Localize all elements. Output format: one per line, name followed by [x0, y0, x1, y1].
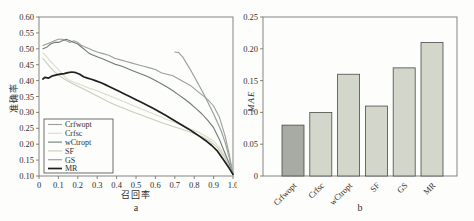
bar-chart-panel: 00.050.100.150.200.25CrfwoptCrfscwCtropt…	[237, 0, 474, 221]
bar-GS	[393, 68, 415, 176]
bar-label-SF: SF	[368, 180, 382, 194]
bar-SF	[365, 106, 387, 176]
bar-wCtropt	[338, 74, 360, 176]
legend-label-Crfsc: Crfsc	[65, 129, 83, 138]
subfigure-caption-b: b	[263, 202, 457, 213]
two-panel-figure: 00.10.20.30.40.50.60.70.80.91.00.100.150…	[0, 0, 474, 221]
legend-label-SF: SF	[65, 147, 74, 156]
legend-label-wCtropt: wCtropt	[65, 138, 92, 147]
y-tick-label: 0.45	[19, 60, 34, 70]
mae-bar-chart: 00.050.100.150.200.25CrfwoptCrfscwCtropt…	[237, 0, 474, 221]
line-chart-panel: 00.10.20.30.40.50.60.70.80.91.00.100.150…	[0, 0, 237, 221]
y-tick-label: 0.05	[243, 139, 258, 149]
legend-label-MR: MR	[65, 164, 78, 173]
y-tick-label: 0.25	[19, 123, 34, 133]
bar-label-Crfsc: Crfsc	[306, 180, 326, 200]
legend-label-GS: GS	[65, 156, 75, 165]
y-tick-label: 0.55	[19, 28, 34, 38]
legend-label-Crfwopt: Crfwopt	[65, 120, 92, 129]
y-tick-label: 0.25	[243, 12, 258, 22]
y-tick-label: 0.15	[243, 76, 258, 86]
y-tick-label: 0.50	[19, 44, 34, 54]
y-axis-label-precision: 准确率	[7, 83, 20, 113]
bar-label-GS: GS	[395, 180, 410, 195]
y-tick-label: 0.30	[19, 107, 34, 117]
y-tick-label: 0.20	[19, 139, 34, 149]
y-tick-label: 0.40	[19, 76, 34, 86]
y-tick-label: 0.10	[19, 171, 34, 181]
bar-MR	[421, 42, 443, 176]
subfigure-caption-a: a	[39, 202, 233, 213]
x-axis-label-recall: 召回率	[39, 188, 233, 201]
y-tick-label: 0	[254, 171, 258, 181]
bar-Crfwopt	[282, 125, 304, 176]
bar-Crfsc	[310, 112, 332, 176]
y-tick-label: 0.35	[19, 92, 34, 102]
bar-label-MR: MR	[421, 180, 438, 197]
y-tick-label: 0.20	[243, 44, 258, 54]
y-tick-label: 0.60	[19, 12, 34, 22]
y-tick-label: 0.15	[19, 155, 34, 165]
y-axis-label-mae: MAE	[246, 91, 256, 113]
